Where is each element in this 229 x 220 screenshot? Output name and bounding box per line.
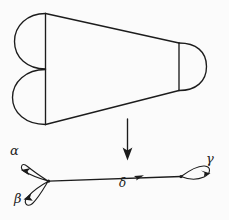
- band-bottom-edge: [46, 91, 180, 125]
- edge-beta-arrowhead: [24, 193, 33, 201]
- graph-group: [21, 165, 211, 206]
- label-gamma: γ: [206, 152, 214, 165]
- upper-shape-group: [13, 14, 207, 125]
- left-lobe-lower: [13, 70, 46, 125]
- deformation-retract-arrow: [123, 119, 133, 161]
- label-alpha: α: [10, 144, 19, 157]
- edge-delta-line: [49, 177, 182, 182]
- figure-root: α β γ δ: [0, 0, 229, 220]
- label-delta: δ: [119, 177, 126, 189]
- band-top-edge: [46, 14, 180, 44]
- vertex-right: [179, 175, 182, 178]
- right-cap: [179, 43, 207, 91]
- left-lobe-upper: [15, 14, 46, 70]
- label-beta: β: [14, 192, 22, 205]
- figure-canvas: [0, 0, 229, 220]
- edge-beta-loop: [25, 182, 48, 206]
